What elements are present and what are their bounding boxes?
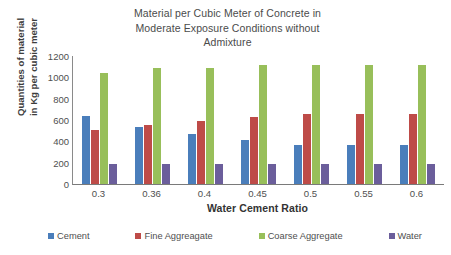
bar	[321, 164, 329, 184]
bar	[409, 114, 417, 184]
bar	[303, 114, 311, 184]
bar	[215, 164, 223, 184]
bar	[250, 117, 258, 184]
bar	[206, 68, 214, 184]
x-axis-tick-label: 0.5	[284, 188, 337, 199]
bar	[347, 145, 355, 184]
legend-item[interactable]: Cement	[48, 231, 90, 241]
chart-title-line-2: Moderate Exposure Conditions without	[90, 21, 365, 36]
bar	[259, 65, 267, 184]
y-axis-title-line-1: Quantities of material	[15, 0, 28, 135]
x-axis-tick-label: 0.6	[390, 188, 443, 199]
legend-label: Water	[398, 231, 422, 241]
x-axis-tick-labels: 0.30.360.40.450.50.550.6	[72, 188, 443, 199]
bar	[197, 121, 205, 184]
y-axis-title-line-2: in Kg per cubic meter	[28, 0, 41, 135]
bar-group	[179, 56, 232, 184]
bar	[91, 130, 99, 184]
x-axis-tick-label: 0.36	[125, 188, 178, 199]
bar	[418, 65, 426, 184]
legend-label: Coarse Aggregate	[268, 231, 343, 241]
legend-swatch-icon	[259, 233, 265, 239]
bar	[427, 164, 435, 184]
legend-item[interactable]: Fine Aggreagate	[135, 231, 212, 241]
y-axis-tick-label: 1200	[48, 51, 69, 62]
bar	[162, 164, 170, 184]
bar	[109, 164, 117, 184]
y-axis-tick-label: 800	[53, 93, 69, 104]
y-axis-tick-label: 200	[53, 157, 69, 168]
legend-swatch-icon	[48, 233, 54, 239]
bar-chart: Material per Cubic Meter of Concrete in …	[0, 0, 451, 255]
chart-legend: CementFine AggreagateCoarse AggregateWat…	[40, 231, 430, 241]
legend-swatch-icon	[389, 233, 395, 239]
x-axis-tick-label: 0.4	[178, 188, 231, 199]
chart-title-line-3: Admixture	[90, 35, 365, 50]
bar	[144, 125, 152, 184]
legend-label: Cement	[57, 231, 90, 241]
bar	[374, 164, 382, 184]
x-axis-tick-label: 0.3	[72, 188, 125, 199]
bar-group	[232, 56, 285, 184]
bar-group	[73, 56, 126, 184]
bar	[365, 65, 373, 184]
y-axis-tick-label: 0	[64, 179, 69, 190]
x-axis-tick-label: 0.55	[337, 188, 390, 199]
y-axis-tick-label: 400	[53, 136, 69, 147]
y-axis-tick-label: 1000	[48, 72, 69, 83]
legend-swatch-icon	[135, 233, 141, 239]
x-axis-tick-label: 0.45	[231, 188, 284, 199]
legend-label: Fine Aggreagate	[144, 231, 212, 241]
bar	[82, 116, 90, 184]
y-axis-title: Quantities of material in Kg per cubic m…	[15, 0, 45, 135]
bar	[268, 164, 276, 184]
bar-group	[285, 56, 338, 184]
bar	[153, 68, 161, 184]
bar	[356, 114, 364, 184]
bar	[135, 127, 143, 184]
bar-group	[338, 56, 391, 184]
bar	[294, 145, 302, 184]
x-axis-title: Water Cement Ratio	[72, 202, 443, 214]
bar-groups	[73, 56, 444, 184]
legend-item[interactable]: Coarse Aggregate	[259, 231, 343, 241]
bar-group	[391, 56, 444, 184]
bar	[100, 73, 108, 184]
bar	[400, 145, 408, 184]
bar	[188, 134, 196, 184]
legend-item[interactable]: Water	[389, 231, 422, 241]
bar	[241, 140, 249, 184]
bar	[312, 65, 320, 184]
chart-title: Material per Cubic Meter of Concrete in …	[90, 6, 365, 50]
y-axis-tick-label: 600	[53, 115, 69, 126]
plot-area: 020040060080010001200	[72, 56, 444, 185]
chart-title-line-1: Material per Cubic Meter of Concrete in	[90, 6, 365, 21]
bar-group	[126, 56, 179, 184]
